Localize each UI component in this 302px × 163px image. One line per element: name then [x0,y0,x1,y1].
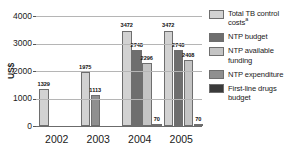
y-tick-mark [33,126,36,127]
legend-label: NTP availablefunding [228,46,274,65]
legend-swatch [209,84,224,93]
legend-label: Total TB controlcostsa [228,9,279,28]
bars-layer: 1329197511133472274822967034722748240870 [36,0,202,127]
legend-swatch [209,33,224,42]
bar-group-2005: 34722748240870 [161,0,203,126]
bar-group-2003: 19751113 [78,0,120,126]
bar-value-label: 1329 [35,82,53,88]
bar-value-label: 2408 [180,53,198,59]
legend-item[interactable]: First-line drugsbudget [209,84,302,103]
y-tick-label: 4000 [4,12,32,21]
legend-item[interactable]: NTP budget [209,32,302,42]
legend-label: NTP budget [228,32,267,41]
bar-value-label: 1975 [77,65,95,71]
bar-group-2004: 34722748229670 [119,0,161,126]
y-tick-label: 3000 [4,39,32,48]
bar-value-label: 70 [190,117,208,123]
legend-swatch [209,47,224,56]
bar [39,89,49,126]
legend-label: First-line drugsbudget [228,84,277,103]
plot-area: US$ 01000200030004000 132919751113347227… [0,0,206,163]
y-tick-label: 0 [4,122,32,131]
legend-item[interactable]: Total TB controlcostsa [209,9,302,28]
x-tick-label: 2003 [78,133,120,145]
bar-group-2002: 1329 [36,0,78,126]
gridline [36,99,202,100]
x-tick-label: 2004 [119,133,161,145]
y-tick-label: 1000 [4,94,32,103]
bar [132,50,142,126]
gridline [36,71,202,72]
y-tick-label: 2000 [4,67,32,76]
legend-item[interactable]: NTP expenditure [209,70,302,80]
x-tick-label: 2005 [161,133,203,145]
y-axis-tick-labels: 01000200030004000 [0,0,32,163]
bar-value-label: 1113 [87,88,105,94]
legend-label: NTP expenditure [228,70,283,79]
legend-swatch [209,70,224,79]
gridline [36,44,202,45]
legend-swatch [209,10,224,19]
bar-chart-figure: US$ 01000200030004000 132919751113347227… [0,0,302,163]
legend-item[interactable]: NTP availablefunding [209,46,302,65]
bar-value-label: 2296 [138,56,156,62]
bar-value-label: 3472 [160,23,178,29]
bar [194,124,204,126]
bar [91,95,101,126]
chart-legend: Total TB controlcostsaNTP budgetNTP avai… [209,9,302,107]
x-tick-label: 2002 [36,133,78,145]
bar-value-label: 3472 [118,23,136,29]
gridline [36,16,202,17]
bar [174,50,184,126]
